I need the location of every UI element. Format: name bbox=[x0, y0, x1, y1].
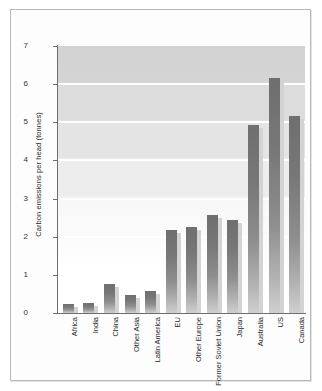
x-axis-tick-label: Africa bbox=[71, 317, 79, 336]
plot-area bbox=[58, 46, 305, 313]
y-axis-tick-label: 4 bbox=[2, 156, 28, 164]
y-axis-tick bbox=[53, 313, 57, 314]
y-axis-tick bbox=[53, 46, 57, 47]
bar[interactable] bbox=[269, 78, 280, 313]
x-axis-tick-label: Latin America bbox=[154, 317, 162, 362]
x-axis-tick-label: Former Soviet Union bbox=[215, 317, 223, 386]
chart-frame: 01234567 Carbon emissions per head (tonn… bbox=[10, 9, 311, 381]
x-axis-tick-label: Other Europe bbox=[195, 317, 203, 362]
bar[interactable] bbox=[248, 125, 259, 313]
y-axis-tick-label: 0 bbox=[2, 309, 28, 317]
bar[interactable] bbox=[145, 291, 156, 313]
bar[interactable] bbox=[63, 304, 74, 313]
x-axis-tick-label: Australia bbox=[257, 317, 265, 346]
bar[interactable] bbox=[186, 227, 197, 313]
x-axis-tick-label: Other Asia bbox=[133, 317, 141, 352]
y-axis-tick bbox=[53, 237, 57, 238]
y-axis-tick-label: 5 bbox=[2, 118, 28, 126]
y-axis-tick bbox=[53, 275, 57, 276]
bar[interactable] bbox=[125, 295, 136, 313]
y-axis-tick-label: 1 bbox=[2, 271, 28, 279]
y-axis-tick-label: 3 bbox=[2, 195, 28, 203]
bar[interactable] bbox=[207, 215, 218, 313]
y-axis-tick-label: 7 bbox=[2, 42, 28, 50]
y-axis-tick bbox=[53, 160, 57, 161]
y-axis-tick bbox=[53, 84, 57, 85]
bar[interactable] bbox=[83, 303, 94, 313]
x-axis-tick-label: US bbox=[277, 317, 285, 327]
y-axis-tick bbox=[53, 122, 57, 123]
bar[interactable] bbox=[104, 284, 115, 313]
x-axis-tick-label: Japan bbox=[236, 317, 244, 337]
y-axis-tick bbox=[53, 199, 57, 200]
x-axis-line bbox=[57, 313, 306, 314]
x-axis-tick-label: EU bbox=[174, 317, 182, 327]
y-axis-line bbox=[57, 45, 58, 314]
y-axis-tick-label: 6 bbox=[2, 80, 28, 88]
y-axis-title: Carbon emissions per head (tonnes) bbox=[34, 105, 43, 245]
x-axis-tick-label: India bbox=[92, 317, 100, 333]
x-axis-tick-label: China bbox=[112, 317, 120, 337]
bar[interactable] bbox=[166, 230, 177, 313]
x-axis-tick-label: Canada bbox=[298, 317, 306, 343]
bar[interactable] bbox=[227, 220, 238, 313]
y-axis-tick-label: 2 bbox=[2, 233, 28, 241]
bar[interactable] bbox=[289, 116, 300, 313]
chart-figure: 01234567 Carbon emissions per head (tonn… bbox=[0, 0, 322, 391]
